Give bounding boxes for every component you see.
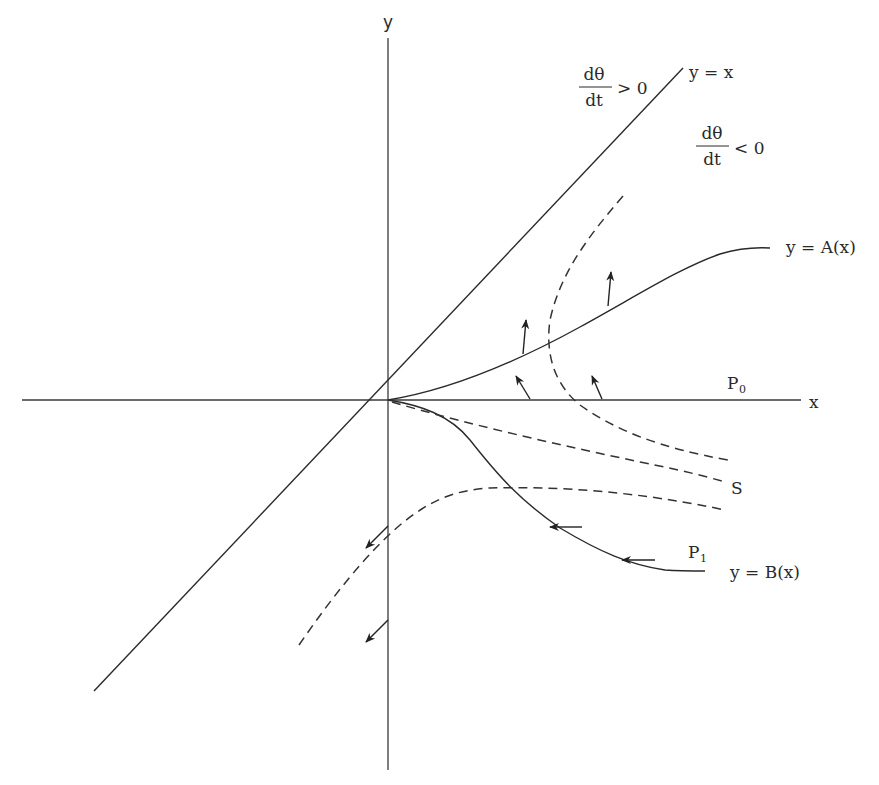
vector-arrow-4 <box>592 376 602 399</box>
svg-text:dt: dt <box>585 90 603 110</box>
curve-b <box>388 400 705 571</box>
svg-text:dθ: dθ <box>583 64 604 84</box>
vector-arrow-3 <box>516 376 530 399</box>
curve-a <box>388 248 770 400</box>
svg-text:1: 1 <box>700 552 707 565</box>
region-label-positive: dθ dt > 0 <box>579 64 647 110</box>
svg-text:P: P <box>688 542 699 562</box>
region-label-negative: dθ dt < 0 <box>696 123 764 169</box>
curve-a-label: y = A(x) <box>785 237 856 257</box>
separatrix-s <box>392 402 725 482</box>
vector-arrow-2 <box>608 272 611 306</box>
svg-text:dt: dt <box>703 149 721 169</box>
phase-plane-diagram: y x y = x y = A(x) y = B(x) S dθ dt > 0 … <box>0 0 879 785</box>
svg-text:> 0: > 0 <box>617 78 647 98</box>
x-axis-label: x <box>809 392 819 412</box>
separatrix-label: S <box>731 478 743 498</box>
svg-text:< 0: < 0 <box>734 138 764 158</box>
vector-arrow-7 <box>366 526 388 548</box>
svg-text:dθ: dθ <box>701 123 722 143</box>
y-axis-label: y <box>383 12 393 32</box>
diagonal-label: y = x <box>688 62 734 82</box>
svg-text:P: P <box>727 373 738 393</box>
curve-b-label: y = B(x) <box>729 562 800 582</box>
vector-arrow-8 <box>366 620 388 642</box>
vector-arrow-1 <box>523 320 526 354</box>
svg-text:0: 0 <box>739 383 746 396</box>
point-p1-label: P 1 <box>688 542 707 565</box>
dashed-trajectory-lower <box>299 488 725 645</box>
dashed-trajectory-upper <box>549 196 728 460</box>
point-p0-label: P 0 <box>727 373 746 396</box>
